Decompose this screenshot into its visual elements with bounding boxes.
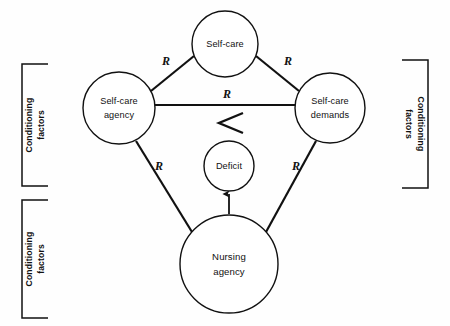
relation-label-agency-to-selfcare: R bbox=[161, 54, 170, 68]
bracket-right-upper-label-line1: Conditioning bbox=[416, 97, 426, 152]
bracket-left-lower-label-line2: factors bbox=[36, 244, 46, 274]
relation-label-agency-to-demands: R bbox=[222, 87, 231, 101]
edge-agency-to-selfcare bbox=[151, 56, 194, 91]
bracket-left-upper-label-line1: Conditioning bbox=[24, 98, 34, 153]
node-nursing-agency-label-line1: Nursing bbox=[212, 251, 246, 262]
bracket-left-lower-label-line1: Conditioning bbox=[24, 232, 34, 287]
node-group: Self-care Self-care agency Self-care dem… bbox=[83, 11, 365, 313]
inequality-symbol bbox=[219, 113, 243, 133]
edge-nursing-to-demands bbox=[266, 141, 316, 232]
node-deficit-label: Deficit bbox=[216, 161, 243, 171]
concept-diagram: Self-care Self-care agency Self-care dem… bbox=[0, 0, 450, 326]
node-self-care-agency[interactable]: Self-care agency bbox=[83, 72, 155, 144]
node-self-care-agency-label-line1: Self-care bbox=[100, 96, 138, 106]
relation-label-nursing-to-agency: R bbox=[154, 159, 163, 173]
node-nursing-agency-circle bbox=[180, 215, 278, 313]
bracket-left-upper: Conditioning factors bbox=[22, 64, 48, 186]
node-nursing-agency[interactable]: Nursing agency bbox=[180, 215, 278, 313]
node-self-care-label: Self-care bbox=[206, 39, 244, 49]
relation-label-selfcare-to-demands: R bbox=[283, 54, 292, 68]
bracket-left-lower: Conditioning factors bbox=[22, 200, 48, 318]
node-self-care-demands-label-line2: demands bbox=[311, 110, 350, 120]
edge-selfcare-to-demands bbox=[256, 56, 299, 91]
bracket-right-upper-label-line2: factors bbox=[404, 109, 414, 139]
node-self-care-demands[interactable]: Self-care demands bbox=[295, 73, 365, 143]
edge-nursing-to-agency bbox=[136, 141, 192, 232]
relation-label-nursing-to-demands: R bbox=[291, 159, 300, 173]
diagram-canvas: Self-care Self-care agency Self-care dem… bbox=[0, 0, 450, 326]
node-self-care[interactable]: Self-care bbox=[192, 11, 258, 77]
bracket-right-upper: Conditioning factors bbox=[402, 60, 428, 188]
node-self-care-agency-label-line2: agency bbox=[104, 110, 135, 120]
bracket-left-upper-label-line2: factors bbox=[36, 110, 46, 140]
node-nursing-agency-label-line2: agency bbox=[213, 266, 245, 277]
node-self-care-demands-label-line1: Self-care bbox=[311, 96, 349, 106]
node-self-care-agency-circle bbox=[83, 72, 155, 144]
node-self-care-demands-circle bbox=[295, 73, 365, 143]
node-deficit[interactable]: Deficit bbox=[204, 141, 254, 191]
